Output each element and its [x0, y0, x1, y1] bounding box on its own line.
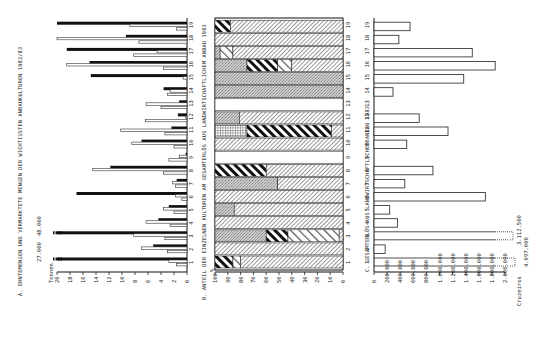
chart-c-bar — [374, 179, 405, 188]
chart-b-segment-fine-hatch — [234, 204, 343, 216]
chart-a-bar-marketed — [77, 192, 188, 195]
chart-a-bar-harvest — [146, 221, 187, 224]
chart-c-total-revenue: 3.112.5004.097.0000200.000400.000600.000… — [364, 18, 529, 306]
chart-a-bar-harvest — [175, 195, 187, 198]
chart-c-tick-label: 200.000 — [384, 260, 390, 283]
chart-a-bar-secondary — [174, 211, 187, 213]
chart-c-category-label: 19 — [364, 22, 370, 29]
chart-a-tick-label: 4 — [158, 279, 164, 283]
chart-a-bar-harvest — [93, 168, 187, 171]
chart-c-category-label: 12 — [364, 113, 370, 120]
chart-b-segment-stipple — [215, 73, 343, 85]
chart-c-category-label: 15 — [364, 74, 370, 81]
chart-b-segment-bold-hatch — [215, 20, 230, 32]
chart-a-bar-harvest — [121, 129, 187, 132]
chart-a-bar-secondary — [134, 54, 187, 56]
chart-b-category-label: 17 — [345, 48, 351, 55]
chart-a-bar-harvest — [179, 155, 187, 158]
chart-b-category-label: 14 — [345, 86, 351, 93]
chart-b-segment-fine-hatch — [292, 60, 343, 72]
chart-a-title: A. ERNTEMENGEN UND VERMARKTETE MENGEN DE… — [17, 47, 23, 296]
chart-a-category-label: 2 — [188, 248, 194, 251]
chart-a-category-label: 17 — [188, 48, 194, 55]
chart-a-category-label: 10 — [188, 139, 194, 146]
chart-a-bar-secondary — [164, 67, 187, 69]
chart-a-category-label: 18 — [188, 35, 194, 42]
figure-canvas: A. ERNTEMENGEN UND VERMARKTETE MENGEN DE… — [0, 0, 557, 338]
chart-a-tick-label: 18 — [67, 276, 73, 283]
chart-b-segment-blank — [215, 151, 343, 163]
chart-c-tick-label: 600.000 — [410, 260, 416, 283]
chart-a-tick-label: 20 — [54, 276, 60, 283]
chart-b-category-label: 8 — [345, 169, 351, 172]
chart-b-category-label: 15 — [345, 74, 351, 81]
chart-c-category-label: 13 — [364, 100, 370, 107]
chart-c-category-label: 14 — [364, 86, 370, 93]
chart-a-bar-secondary — [177, 28, 187, 30]
chart-a-category-label: 9 — [188, 156, 194, 159]
chart-a-bar-harvest — [134, 234, 187, 237]
chart-c-break-label-3112500: 3.112.500 — [516, 215, 522, 245]
chart-b-segment-fine-hatch — [239, 112, 343, 124]
chart-b-segment-fine-hatch — [215, 217, 343, 229]
chart-c-category-label: 18 — [364, 35, 370, 42]
chart-c-bar — [374, 35, 399, 44]
chart-a-bar-marketed — [57, 258, 187, 261]
chart-a-tick-label: 0 — [184, 280, 190, 283]
chart-a-bar-secondary — [161, 106, 187, 108]
chart-b-tick-label: 80 — [238, 276, 244, 283]
chart-a-bar-marketed — [91, 74, 187, 77]
chart-b-segment-fine-hatch — [215, 138, 343, 150]
chart-c-tick-label: 2.000.000 — [502, 253, 508, 283]
chart-c-category-label: 16 — [364, 61, 370, 68]
chart-a-category-label: 8 — [188, 169, 194, 172]
chart-a-bar-secondary — [139, 41, 187, 43]
chart-c-bar — [374, 127, 448, 136]
chart-a-bar-harvest — [146, 103, 187, 106]
chart-b-tick-label: 100 — [212, 273, 218, 283]
chart-b-category-label: 11 — [345, 126, 351, 133]
chart-c-category-label: 1 — [364, 261, 370, 264]
chart-a-bar-secondary — [177, 264, 187, 266]
chart-b-segment-light-hatch — [278, 60, 292, 72]
chart-a-tick-label: 14 — [93, 276, 99, 283]
chart-b-category-label: 12 — [345, 113, 351, 120]
chart-b-segment-grid — [215, 125, 247, 137]
chart-a-bar-harvest — [173, 181, 187, 184]
chart-a-category-label: 7 — [188, 182, 194, 185]
chart-c-category-label: 5 — [364, 208, 370, 211]
chart-b-category-label: 10 — [345, 139, 351, 146]
chart-c-tick-label: 1.600.000 — [476, 253, 482, 283]
chart-a-bar-secondary — [164, 172, 187, 174]
chart-c-category-label: 17 — [364, 48, 370, 55]
chart-a-bar-harvest — [170, 90, 187, 93]
chart-a-bar-harvest — [57, 37, 187, 40]
chart-a-category-label: 5 — [188, 208, 194, 211]
chart-c-bar — [374, 22, 410, 31]
chart-b-tick-label: 30 — [302, 276, 308, 283]
chart-c-tick-label: 800.000 — [423, 260, 429, 283]
chart-c-category-label: 7 — [364, 182, 370, 185]
chart-a-bar-secondary — [170, 224, 187, 226]
chart-b-segment-stipple — [215, 60, 247, 72]
chart-a-category-label: 12 — [188, 113, 194, 120]
chart-b-segment-stipple — [215, 177, 278, 189]
chart-a-bar-secondary — [174, 146, 187, 148]
chart-c-category-label: 8 — [364, 169, 370, 172]
chart-b-category-label: 18 — [345, 35, 351, 42]
chart-b-segment-bold-hatch — [215, 164, 266, 176]
chart-c-category-label: 9 — [364, 156, 370, 159]
chart-c-bar — [374, 48, 472, 57]
chart-c-tick-label: 1.000.000 — [437, 253, 443, 283]
chart-a-category-label: 6 — [188, 195, 194, 198]
chart-b-unit-label: % — [209, 268, 215, 272]
chart-a-category-label: 13 — [188, 100, 194, 107]
chart-a-tick-label: 16 — [80, 276, 86, 283]
chart-a-bar-harvest — [130, 24, 187, 27]
chart-a-bar-harvest — [132, 142, 187, 145]
chart-b-segment-fine-hatch — [215, 243, 343, 255]
chart-b-category-label: 19 — [345, 22, 351, 29]
chart-a-break-label-48000: 48.000 — [36, 216, 42, 236]
chart-c-category-label: 3 — [364, 234, 370, 237]
chart-c-bar — [374, 219, 398, 228]
